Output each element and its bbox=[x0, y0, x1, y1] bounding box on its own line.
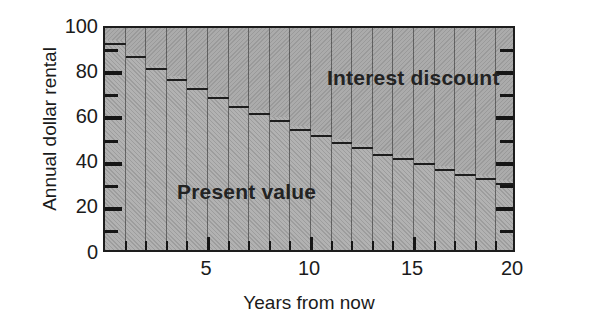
bar-segment-divider bbox=[105, 43, 126, 45]
bar-segment-present-value bbox=[167, 76, 188, 250]
x-axis-tick-mark bbox=[310, 237, 313, 250]
chart-figure: Annual dollar rental 100 80 60 40 20 0 5… bbox=[0, 0, 593, 324]
bar-segment-interest-discount bbox=[290, 28, 311, 130]
bar-segment-interest-discount bbox=[187, 28, 208, 89]
y-axis-tick-mark bbox=[105, 207, 122, 211]
stacked-bar bbox=[332, 28, 353, 250]
stacked-bar bbox=[414, 28, 435, 250]
y-axis-tick-mark bbox=[500, 49, 513, 52]
stacked-bar bbox=[126, 28, 147, 250]
bar-segment-interest-discount bbox=[455, 28, 476, 175]
bar-segment-present-value bbox=[187, 85, 208, 250]
bar-segment-present-value bbox=[435, 166, 456, 250]
bar-segment-interest-discount bbox=[270, 28, 291, 121]
stacked-bar bbox=[352, 28, 373, 250]
bar-segment-present-value bbox=[208, 94, 229, 250]
bar-segment-divider bbox=[270, 120, 291, 122]
x-axis-title: Years from now bbox=[103, 292, 515, 314]
plot-area: Interest discount Present value bbox=[103, 26, 515, 252]
bar-segment-present-value bbox=[414, 160, 435, 250]
annotation-present-value: Present value bbox=[177, 180, 316, 204]
y-axis-tick-mark bbox=[500, 230, 513, 233]
x-axis-tick-mark bbox=[289, 241, 291, 250]
stacked-bar bbox=[311, 28, 332, 250]
y-axis-tick-mark bbox=[105, 116, 122, 120]
y-axis-tick-mark bbox=[105, 140, 118, 143]
stacked-bar bbox=[373, 28, 394, 250]
y-axis-tick-mark bbox=[105, 94, 118, 97]
x-axis-tick-mark bbox=[434, 241, 436, 250]
y-tick-label: 0 bbox=[42, 242, 98, 262]
y-axis-tick-mark bbox=[496, 162, 513, 166]
bar-segment-divider bbox=[332, 142, 353, 144]
y-axis-tick-labels: 100 80 60 40 20 0 bbox=[38, 0, 98, 324]
y-axis-tick-mark bbox=[496, 207, 513, 211]
x-axis-tick-mark bbox=[413, 237, 416, 250]
x-axis-tick-mark bbox=[248, 241, 250, 250]
bar-segment-present-value bbox=[352, 144, 373, 250]
x-axis-tick-mark bbox=[495, 241, 497, 250]
y-axis-tick-mark bbox=[496, 116, 513, 120]
bar-segment-interest-discount bbox=[373, 28, 394, 155]
bar-segment-divider bbox=[414, 163, 435, 165]
bar-segment-divider bbox=[455, 174, 476, 176]
bar-segment-divider bbox=[187, 88, 208, 90]
bar-segment-divider bbox=[167, 79, 188, 81]
bar-segment-interest-discount bbox=[167, 28, 188, 80]
y-axis-tick-mark bbox=[105, 185, 118, 188]
bar-segment-present-value bbox=[126, 53, 147, 250]
stacked-bar bbox=[290, 28, 311, 250]
bar-segment-present-value bbox=[476, 175, 497, 250]
y-axis-tick-mark bbox=[105, 230, 118, 233]
x-tick-label: 5 bbox=[183, 258, 229, 278]
bar-segment-interest-discount bbox=[208, 28, 229, 98]
bar-segment-divider bbox=[476, 178, 497, 180]
x-axis-tick-mark bbox=[372, 241, 374, 250]
bar-segment-interest-discount bbox=[146, 28, 167, 69]
y-tick-label: 20 bbox=[42, 196, 98, 216]
bar-segment-present-value bbox=[373, 151, 394, 250]
y-tick-label: 100 bbox=[42, 16, 98, 36]
bar-segment-interest-discount bbox=[249, 28, 270, 114]
x-axis-tick-mark bbox=[186, 241, 188, 250]
bar-segment-divider bbox=[290, 129, 311, 131]
x-axis-tick-mark bbox=[351, 241, 353, 250]
stacked-bar bbox=[435, 28, 456, 250]
y-axis-tick-mark bbox=[500, 185, 513, 188]
stacked-bar bbox=[455, 28, 476, 250]
bar-segment-present-value bbox=[496, 180, 515, 250]
y-tick-label: 40 bbox=[42, 151, 98, 171]
x-axis-tick-mark bbox=[125, 241, 127, 250]
x-tick-label: 15 bbox=[389, 258, 435, 278]
x-axis-tick-mark bbox=[207, 237, 210, 250]
bar-segment-divider bbox=[435, 169, 456, 171]
y-axis-tick-mark bbox=[105, 162, 122, 166]
bar-segment-present-value bbox=[332, 139, 353, 250]
stacked-bar bbox=[476, 28, 497, 250]
bar-segment-divider bbox=[126, 56, 147, 58]
bar-segment-present-value bbox=[146, 65, 167, 250]
stacked-bar bbox=[187, 28, 208, 250]
bar-segment-divider bbox=[393, 158, 414, 160]
x-axis-tick-mark bbox=[475, 241, 477, 250]
bar-segment-present-value bbox=[393, 155, 414, 250]
stacked-bar bbox=[270, 28, 291, 250]
stacked-bar bbox=[249, 28, 270, 250]
bar-segment-divider bbox=[352, 147, 373, 149]
annotation-interest-discount: Interest discount bbox=[327, 66, 500, 90]
bar-segment-interest-discount bbox=[476, 28, 497, 179]
bar-segment-present-value bbox=[455, 171, 476, 250]
bar-segment-present-value bbox=[229, 103, 250, 250]
y-axis-tick-mark bbox=[105, 71, 122, 75]
y-tick-label: 60 bbox=[42, 106, 98, 126]
bar-segment-interest-discount bbox=[414, 28, 435, 164]
stacked-bar bbox=[229, 28, 250, 250]
x-axis-tick-mark bbox=[228, 241, 230, 250]
x-axis-tick-mark bbox=[454, 241, 456, 250]
y-axis-tick-mark bbox=[500, 94, 513, 97]
bar-segment-divider bbox=[229, 106, 250, 108]
y-axis-tick-mark bbox=[105, 49, 118, 52]
bar-segment-interest-discount bbox=[435, 28, 456, 170]
x-axis-tick-mark bbox=[392, 241, 394, 250]
stacked-bar bbox=[393, 28, 414, 250]
